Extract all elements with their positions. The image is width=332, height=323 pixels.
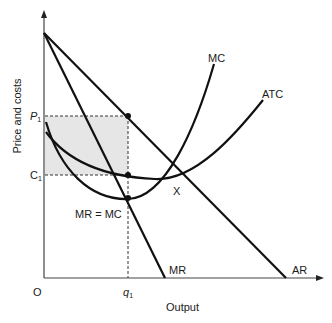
q1-label: q1 bbox=[123, 287, 133, 299]
p1-sub: 1 bbox=[37, 116, 41, 123]
p1-label: P1 bbox=[30, 111, 41, 123]
c1-label: C1 bbox=[30, 170, 42, 182]
profit-max-diagram bbox=[0, 0, 332, 323]
mr-eq-mc-label: MR = MC bbox=[75, 209, 122, 220]
q1-sub: 1 bbox=[129, 292, 133, 299]
x-point-label: X bbox=[173, 186, 180, 197]
mr-label: MR bbox=[169, 265, 186, 276]
x-axis-label: Output bbox=[166, 302, 199, 313]
c1-sub: 1 bbox=[38, 175, 42, 182]
price-point bbox=[125, 113, 131, 119]
y-axis-label: Price and costs bbox=[11, 71, 23, 161]
mr-mc-point bbox=[125, 195, 131, 201]
atc-label: ATC bbox=[262, 89, 283, 100]
y-axis-arrow-icon bbox=[41, 10, 47, 18]
ar-label: AR bbox=[292, 265, 307, 276]
cost-point bbox=[125, 172, 131, 178]
c1-main: C bbox=[30, 169, 38, 181]
x-axis-arrow-icon bbox=[316, 275, 324, 281]
origin-label: O bbox=[33, 287, 42, 298]
mc-label: MC bbox=[208, 53, 225, 64]
